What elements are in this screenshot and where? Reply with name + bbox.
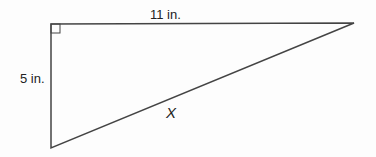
left-side-label: 5 in.: [20, 72, 45, 85]
hypotenuse-label: X: [166, 105, 176, 120]
right-angle-marker-icon: [51, 24, 60, 33]
triangle-outline: [51, 23, 354, 148]
top-side-label: 11 in.: [150, 8, 181, 21]
triangle-diagram: 11 in. 5 in. X: [0, 0, 376, 157]
triangle-shape: [0, 0, 376, 157]
